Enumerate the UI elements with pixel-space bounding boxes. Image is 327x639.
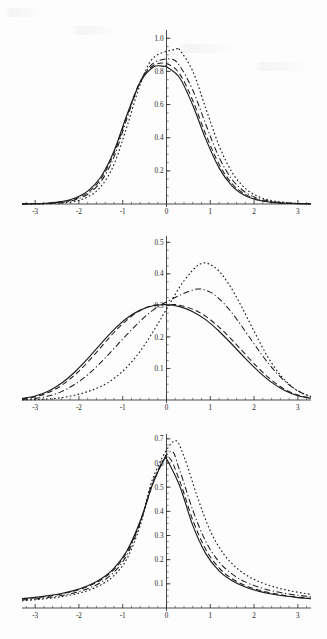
y-tick-label: 0.1 bbox=[155, 580, 164, 588]
x-tick-label: 1 bbox=[208, 612, 212, 620]
y-tick-label: 0.2 bbox=[155, 334, 164, 342]
x-tick-label: -2 bbox=[76, 208, 82, 216]
x-tick-label: 2 bbox=[252, 404, 256, 412]
plot-panel-3: -3-2-112300.10.20.30.40.50.60.7 bbox=[0, 424, 327, 639]
y-tick-label: 0.4 bbox=[155, 508, 164, 516]
y-tick-label: 0.5 bbox=[155, 484, 164, 492]
x-tick-label: -3 bbox=[32, 208, 38, 216]
x-tick-label: -1 bbox=[120, 404, 126, 412]
x-tick-label: 3 bbox=[296, 208, 300, 216]
y-tick-label: 0.2 bbox=[155, 167, 164, 175]
y-tick-label: 0.4 bbox=[155, 270, 164, 278]
y-tick-label: 0.6 bbox=[155, 101, 164, 109]
y-tick-label: 0.3 bbox=[155, 302, 164, 310]
x-tick-label: 1 bbox=[208, 404, 212, 412]
y-tick-label: 1.0 bbox=[155, 35, 164, 43]
x-tick-label: -2 bbox=[76, 612, 82, 620]
x-tick-label: -1 bbox=[120, 612, 126, 620]
x-tick-label-zero: 0 bbox=[165, 404, 169, 412]
figure-panel-2: -3-2-112300.10.20.30.40.5 bbox=[0, 228, 327, 424]
y-tick-label: 0.2 bbox=[155, 556, 164, 564]
y-tick-label: 0.5 bbox=[155, 239, 164, 247]
x-tick-label: -2 bbox=[76, 404, 82, 412]
y-tick-label: 0.7 bbox=[155, 435, 164, 443]
y-tick-label: 0.8 bbox=[155, 68, 164, 76]
x-tick-label: 2 bbox=[252, 208, 256, 216]
y-tick-label: 0.4 bbox=[155, 134, 164, 142]
figure-panel-3: -3-2-112300.10.20.30.40.50.60.7 bbox=[0, 424, 327, 639]
x-tick-label: 1 bbox=[208, 208, 212, 216]
x-tick-label: 2 bbox=[252, 612, 256, 620]
y-tick-label: 0.1 bbox=[155, 365, 164, 373]
x-tick-label: 3 bbox=[296, 404, 300, 412]
plot-panel-1: -3-2-112300.20.40.60.81.0 bbox=[0, 8, 327, 228]
x-tick-label-zero: 0 bbox=[165, 612, 169, 620]
x-tick-label: -3 bbox=[32, 612, 38, 620]
x-tick-label: -1 bbox=[120, 208, 126, 216]
y-tick-label: 0.3 bbox=[155, 532, 164, 540]
x-tick-label: -3 bbox=[32, 404, 38, 412]
x-tick-label: 3 bbox=[296, 612, 300, 620]
figure-panel-1: -3-2-112300.20.40.60.81.0 bbox=[0, 8, 327, 228]
plot-panel-2: -3-2-112300.10.20.30.40.5 bbox=[0, 228, 327, 424]
x-tick-label-zero: 0 bbox=[165, 208, 169, 216]
